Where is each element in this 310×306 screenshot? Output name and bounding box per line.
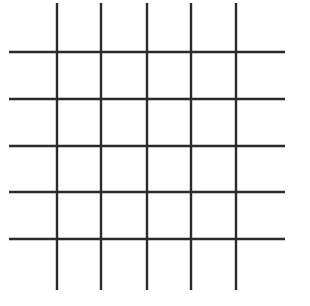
grid-diagram	[0, 0, 310, 306]
